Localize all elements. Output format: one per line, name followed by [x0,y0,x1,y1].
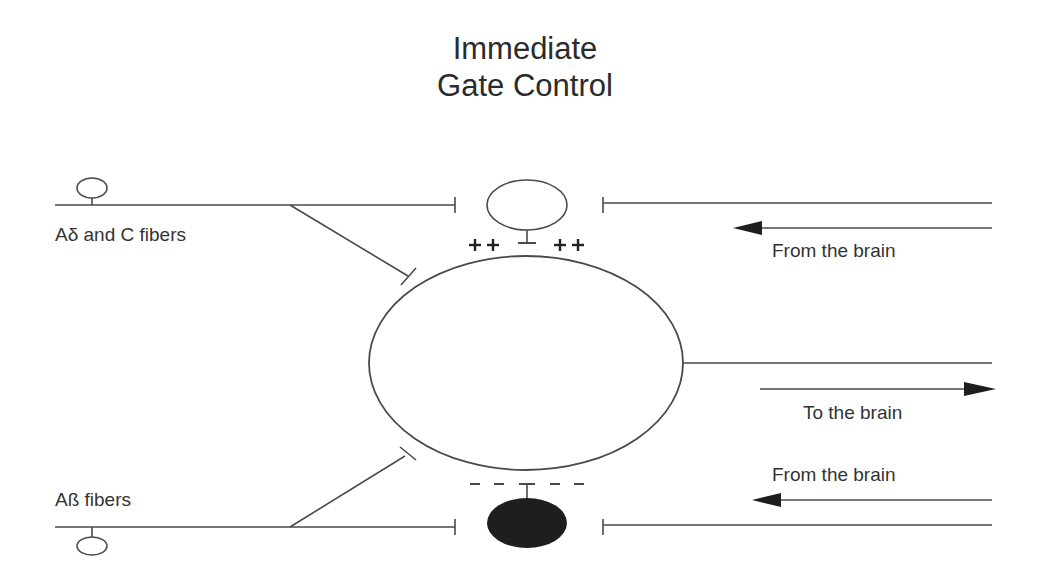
projection-neuron-icon [369,256,683,470]
top-interneuron [487,180,567,243]
inhibitory-interneuron-icon [487,498,567,548]
from-brain-bottom-label: From the brain [772,464,896,486]
from-brain-top-label: From the brain [772,240,896,262]
top-interneuron-icon [487,180,567,230]
a-beta-branch [290,456,405,527]
a-delta-soma-icon [77,178,107,198]
gate-control-diagram [0,0,1050,588]
to-brain-label: To the brain [803,402,902,424]
arrow-left-icon [733,221,762,235]
a-delta-c-fibers-label: Aδ and C fibers [55,224,186,246]
a-beta-fibers-label: Aß fibers [55,489,131,511]
arrow-left-icon [752,493,781,507]
a-delta-branch [290,205,408,276]
arrow-right-icon [964,382,996,396]
a-beta-soma-icon [77,537,107,555]
